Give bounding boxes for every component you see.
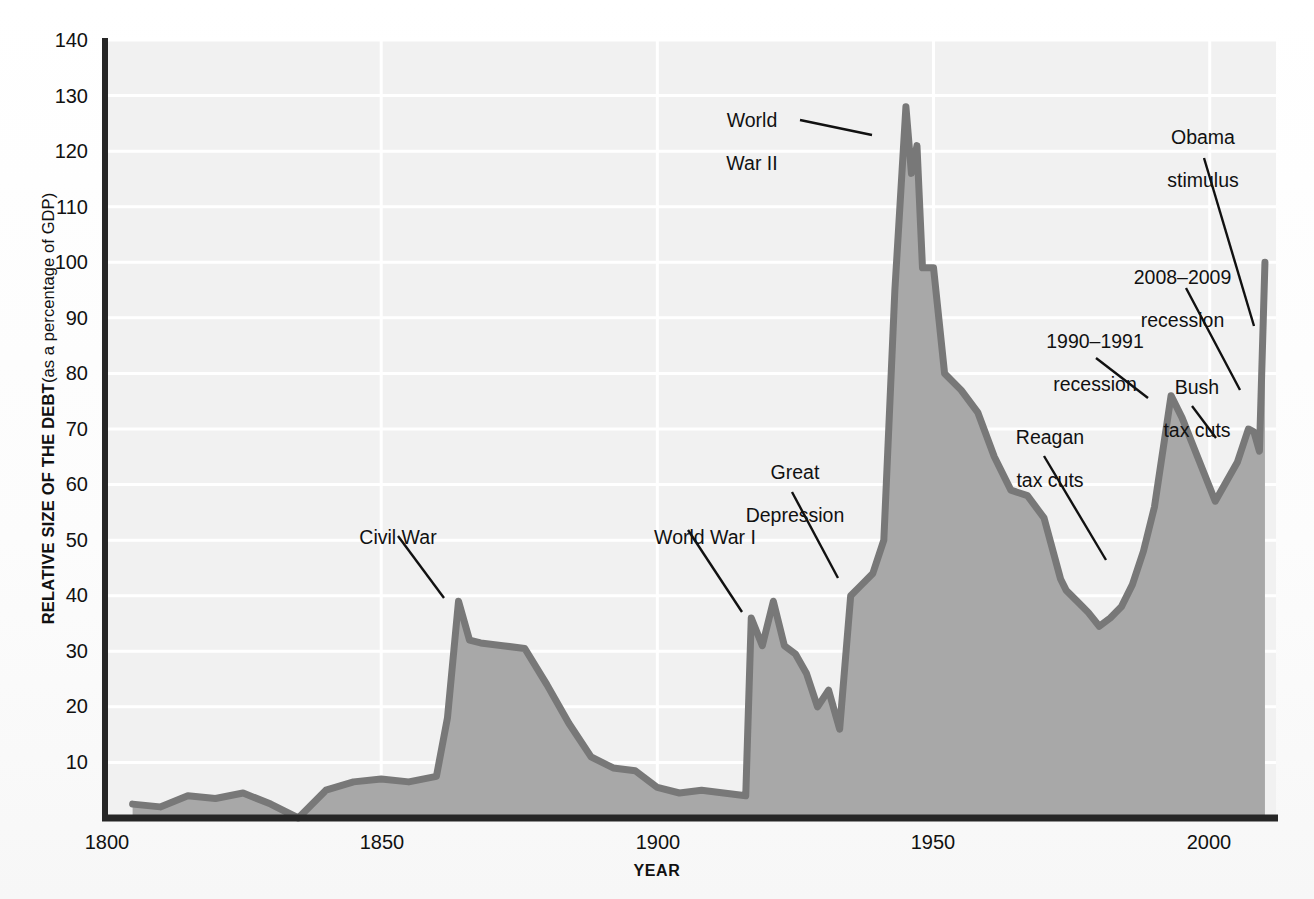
y-tick-140: 140 — [22, 30, 88, 50]
annotation-world-war-ii-line2: War II — [672, 153, 832, 175]
annotation-great-depression-line2: Depression — [700, 505, 890, 527]
y-axis-label-regular: (as a percentage of GDP) — [39, 193, 57, 383]
annotation-2008-2009-recession-line1: 2008–2009 — [1100, 267, 1265, 289]
annotation-bush-tax-cuts-line1: Bush — [1138, 377, 1256, 399]
annotation-civil-war-line1: Civil War — [359, 526, 436, 548]
x-tick-1850: 1850 — [322, 832, 442, 852]
annotation-reagan-tax-cuts-line1: Reagan — [975, 427, 1125, 449]
annotation-world-war-ii: World War II — [672, 88, 832, 197]
annotation-reagan-tax-cuts: Reagan tax cuts — [975, 405, 1125, 514]
y-tick-20: 20 — [22, 696, 88, 716]
annotation-bush-tax-cuts-line2: tax cuts — [1138, 420, 1256, 442]
annotation-bush-tax-cuts: Bush tax cuts — [1138, 355, 1256, 464]
y-axis-label-bold: RELATIVE SIZE OF THE DEBT — [39, 383, 57, 624]
annotation-reagan-tax-cuts-line2: tax cuts — [975, 470, 1125, 492]
debt-gdp-chart-figure: 140 130 120 110 100 90 80 70 60 50 40 30… — [0, 0, 1314, 899]
x-tick-1800: 1800 — [47, 832, 167, 852]
annotation-2008-2009-recession: 2008–2009 recession — [1100, 245, 1265, 354]
annotation-civil-war: Civil War — [318, 505, 478, 549]
y-tick-130: 130 — [22, 86, 88, 106]
annotation-obama-stimulus-line2: stimulus — [1128, 170, 1278, 192]
annotation-obama-stimulus: Obama stimulus — [1128, 105, 1278, 214]
annotation-obama-stimulus-line1: Obama — [1128, 127, 1278, 149]
annotation-2008-2009-recession-line2: recession — [1100, 310, 1265, 332]
x-tick-2000: 2000 — [1149, 832, 1269, 852]
x-axis-label: YEAR — [0, 862, 1314, 880]
x-tick-1950: 1950 — [873, 832, 993, 852]
annotation-great-depression: Great Depression — [700, 440, 890, 549]
annotation-great-depression-line1: Great — [700, 462, 890, 484]
y-axis-label: RELATIVE SIZE OF THE DEBT(as a percentag… — [39, 129, 58, 689]
y-tick-10: 10 — [22, 752, 88, 772]
annotation-world-war-ii-line1: World — [672, 110, 832, 132]
x-tick-1900: 1900 — [598, 832, 718, 852]
